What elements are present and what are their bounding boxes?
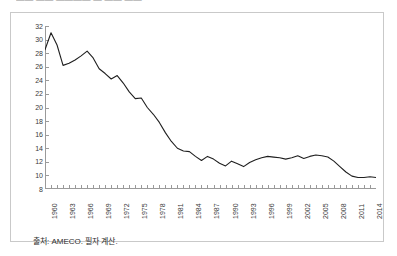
y-tick-label: 14 (25, 145, 43, 152)
x-tick-label: 2005 (322, 203, 329, 219)
x-tick-label: 1987 (213, 203, 220, 219)
x-tick-label: 1999 (286, 203, 293, 219)
x-tick-label: 2008 (340, 203, 347, 219)
y-tick-label: 32 (25, 23, 43, 30)
y-tick-label: 30 (25, 36, 43, 43)
x-tick-label: 2002 (304, 203, 311, 219)
y-tick-label: 18 (25, 118, 43, 125)
chart-title-cropped: —— —— ———— — —— —— (16, 0, 256, 5)
x-tick-label: 1963 (69, 203, 76, 219)
x-tick-label: 2014 (376, 203, 383, 219)
y-tick-label: 8 (25, 186, 43, 193)
x-tick-label: 1975 (141, 203, 148, 219)
x-tick-label: 1972 (123, 203, 130, 219)
line-chart-svg (45, 26, 376, 189)
x-tick-label: 1978 (159, 203, 166, 219)
y-tick-label: 12 (25, 158, 43, 165)
x-tick-label: 1960 (51, 203, 58, 219)
x-tick-label: 1969 (105, 203, 112, 219)
y-axis-labels: 8101214161820222426283032 (23, 26, 43, 189)
x-tick-label: 1981 (177, 203, 184, 219)
y-tick-label: 26 (25, 63, 43, 70)
x-tick-label: 1990 (232, 203, 239, 219)
data-series-line (45, 33, 376, 178)
x-axis-labels: 1960196319661969197219751978198119841987… (45, 190, 376, 224)
x-tick-label: 1993 (250, 203, 257, 219)
x-tick-label: 2011 (358, 204, 365, 219)
x-tick-label: 1966 (87, 203, 94, 219)
y-tick-label: 10 (25, 172, 43, 179)
axis-ticks (45, 27, 376, 190)
x-tick-label: 1996 (268, 203, 275, 219)
figure-frame: 8101214161820222426283032 19601963196619… (10, 12, 384, 242)
source-note: 출처: AMECO. 필자 계산. (33, 237, 118, 247)
y-tick-label: 16 (25, 131, 43, 138)
y-tick-label: 24 (25, 77, 43, 84)
y-tick-label: 20 (25, 104, 43, 111)
y-tick-label: 22 (25, 90, 43, 97)
plot-area (45, 26, 376, 189)
y-tick-label: 28 (25, 50, 43, 57)
x-tick-label: 1984 (195, 203, 202, 219)
